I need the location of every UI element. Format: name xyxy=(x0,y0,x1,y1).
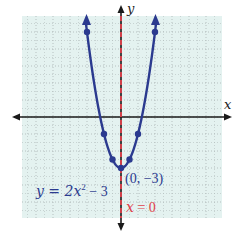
curve-point xyxy=(126,156,132,162)
x-axis-left-arrow-icon xyxy=(12,114,20,121)
vertex-label: (0, −3) xyxy=(125,171,164,187)
curve-point xyxy=(118,165,124,171)
curve-point xyxy=(152,29,158,35)
parabola-graph: x y (0, −3) y = 2x2 − 3 x = 0 xyxy=(0,0,239,235)
x-axis-label: x xyxy=(224,97,232,112)
y-axis-label: y xyxy=(126,1,135,16)
curve-equation-label: y = 2x2 − 3 xyxy=(35,182,108,199)
curve-point xyxy=(135,131,141,137)
curve-point xyxy=(84,29,90,35)
symmetry-rest: = 0 xyxy=(134,200,156,215)
y-axis-down-arrow-icon xyxy=(118,223,125,231)
symmetry-label: x = 0 xyxy=(126,199,156,215)
curve-equation-prefix: y = 2x xyxy=(35,183,81,199)
curve-equation-suffix: − 3 xyxy=(86,184,108,199)
curve-point xyxy=(101,131,107,137)
curve-point xyxy=(109,156,115,162)
symmetry-var: x xyxy=(126,199,134,215)
y-axis-up-arrow-icon xyxy=(118,5,125,13)
x-axis-right-arrow-icon xyxy=(224,114,232,121)
